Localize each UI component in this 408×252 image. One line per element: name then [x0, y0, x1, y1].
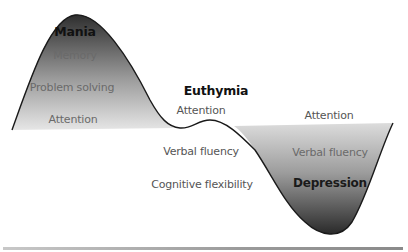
euthymia-label-cognitive-flexibility: Cognitive flexibility: [151, 178, 252, 191]
state-label-euthymia: Euthymia: [184, 83, 249, 98]
depression-label-verbal-fluency: Verbal fluency: [292, 146, 368, 159]
mania-label-memory: Memory: [53, 49, 97, 62]
euthymia-label-verbal-fluency: Verbal fluency: [163, 145, 239, 158]
state-label-depression: Depression: [293, 176, 367, 190]
mania-label-problem-solving: Problem solving: [30, 81, 115, 94]
mania-label-attention: Attention: [49, 113, 98, 126]
depression-label-attention: Attention: [305, 109, 354, 122]
state-label-mania: Mania: [54, 24, 96, 39]
euthymia-label-attention: Attention: [177, 104, 226, 117]
bottom-rule: [3, 247, 403, 250]
